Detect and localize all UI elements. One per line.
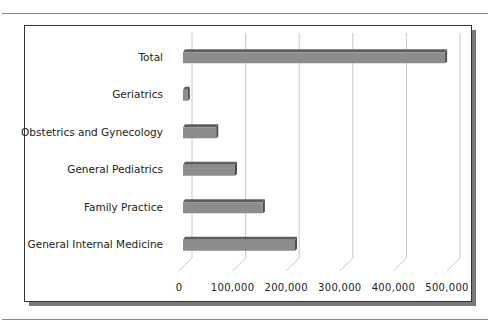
bar <box>183 165 235 176</box>
gridline-depth <box>393 258 406 271</box>
category-labels: General Internal MedicineFamily Practice… <box>21 51 163 251</box>
gridline-depth <box>179 258 192 271</box>
bar-chart: General Internal MedicineFamily Practice… <box>0 0 498 323</box>
gridline-depth <box>447 258 460 271</box>
x-tick-labels: 0100,000200,000300,000400,000500,000 <box>176 282 469 293</box>
gridline-depth <box>286 258 299 271</box>
category-label: Geriatrics <box>112 88 163 100</box>
bar <box>183 127 216 138</box>
bar <box>183 240 295 251</box>
x-tick-label: 400,000 <box>372 282 415 293</box>
gridline-depth <box>340 258 353 271</box>
bar <box>183 202 263 213</box>
x-tick-label: 300,000 <box>318 282 361 293</box>
bar-top <box>183 49 447 52</box>
x-tick-label: 200,000 <box>264 282 307 293</box>
category-label: General Pediatrics <box>67 163 163 175</box>
bar-top <box>183 162 237 165</box>
category-label: Total <box>137 51 163 63</box>
bar <box>183 52 445 63</box>
bar <box>183 90 188 101</box>
x-tick-label: 500,000 <box>425 282 468 293</box>
bar-top <box>183 199 265 202</box>
bar-top <box>183 124 218 127</box>
bar-top <box>183 237 297 240</box>
category-label: Family Practice <box>84 201 163 213</box>
bars <box>183 49 447 251</box>
category-label: Obstetrics and Gynecology <box>21 126 163 138</box>
gridline-depth <box>233 258 246 271</box>
x-tick-label: 0 <box>176 282 183 293</box>
category-label: General Internal Medicine <box>28 238 163 250</box>
gridlines <box>179 33 460 271</box>
x-tick-label: 100,000 <box>211 282 254 293</box>
